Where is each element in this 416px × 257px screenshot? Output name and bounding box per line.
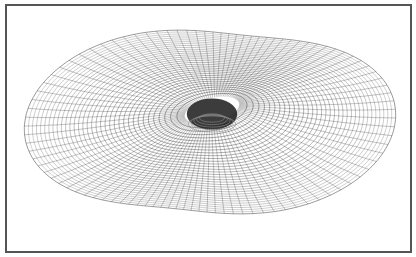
mesh-meridian-line [44,118,185,173]
mesh-meridian-line [225,118,297,207]
wireframe-surface-plot [0,0,416,257]
mesh-meridian-line [239,106,395,110]
mesh-meridian-line [120,123,192,203]
mesh-meridian-line [199,123,208,211]
mesh-meridian-line [228,117,319,200]
mesh-meridian-line [232,114,351,183]
mesh-meridian-line [239,85,387,104]
mesh-meridian-line [224,119,286,210]
mesh-meridian-line [222,119,275,211]
mesh-meridian-line [123,37,199,102]
mesh-meridian-line [207,123,210,212]
mesh-meridian-line [233,113,360,177]
mesh-meridian-line [32,100,187,111]
mesh-meridian-line [25,114,185,135]
mesh-meridian-line [236,49,336,99]
